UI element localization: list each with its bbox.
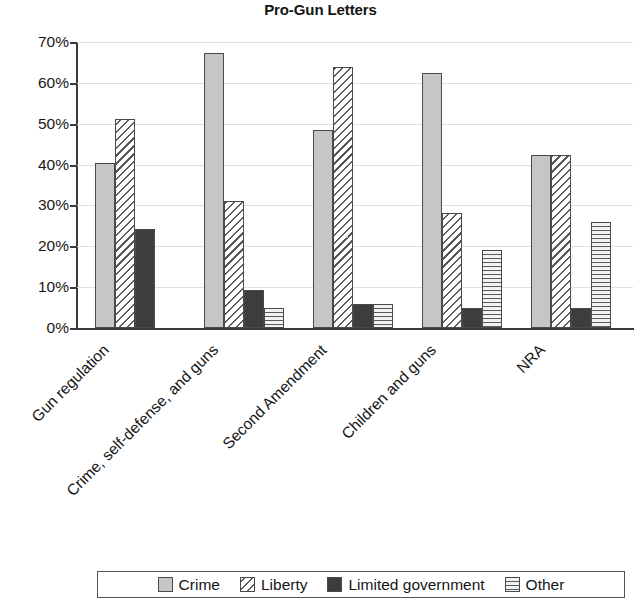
- bar-group: [204, 42, 284, 328]
- bar-chart: Pro-Gun Letters 0%10%20%30%40%50%60%70% …: [0, 0, 641, 604]
- x-axis-tick-label: Children and guns: [338, 341, 440, 443]
- y-axis-tick-mark: [70, 328, 77, 330]
- legend-swatch-icon: [327, 577, 342, 592]
- y-axis-tick-mark: [70, 205, 77, 207]
- y-axis-tick-mark: [70, 83, 77, 85]
- chart-title: Pro-Gun Letters: [0, 1, 641, 18]
- bar: [462, 308, 482, 328]
- bar: [591, 222, 611, 328]
- y-axis-tick-label: 20%: [17, 237, 69, 255]
- bar: [313, 130, 333, 328]
- y-axis-tick-mark: [70, 124, 77, 126]
- legend-swatch-icon: [505, 577, 520, 592]
- bar-group: [95, 42, 175, 328]
- bar: [482, 250, 502, 328]
- y-axis-tick-mark: [70, 165, 77, 167]
- bar: [135, 229, 155, 328]
- y-axis-tick-label: 70%: [17, 33, 69, 51]
- x-axis-tick-label: Second Amendment: [219, 341, 330, 452]
- plot-area: [77, 42, 633, 328]
- x-axis-tick-label: NRA: [513, 341, 549, 377]
- bar: [333, 67, 353, 328]
- bar: [442, 213, 462, 328]
- bar: [264, 308, 284, 328]
- bar: [531, 155, 551, 328]
- legend-label: Liberty: [261, 576, 308, 594]
- legend-label: Other: [526, 576, 565, 594]
- legend-label: Limited government: [348, 576, 484, 594]
- x-axis-tick-label: Gun regulation: [28, 341, 113, 426]
- y-axis-tick-label: 60%: [17, 74, 69, 92]
- bar: [353, 304, 373, 329]
- legend-item[interactable]: Crime: [158, 576, 220, 594]
- legend-item[interactable]: Limited government: [327, 576, 484, 594]
- y-axis-tick-label: 50%: [17, 115, 69, 133]
- y-axis-tick-label: 10%: [17, 278, 69, 296]
- legend: CrimeLibertyLimited governmentOther: [97, 571, 625, 598]
- legend-swatch-icon: [158, 577, 173, 592]
- bar: [95, 163, 115, 328]
- scan-speck: [346, 236, 348, 238]
- legend-swatch-icon: [240, 577, 255, 592]
- bar: [571, 308, 591, 328]
- y-axis-tick-mark: [70, 42, 77, 44]
- y-axis-tick-mark: [70, 246, 77, 248]
- legend-item[interactable]: Other: [505, 576, 565, 594]
- bar: [551, 155, 571, 328]
- bar: [244, 290, 264, 328]
- y-axis-tick-label: 0%: [17, 319, 69, 337]
- bar-group: [531, 42, 611, 328]
- bar-group: [422, 42, 502, 328]
- bar: [373, 304, 393, 329]
- y-axis-tick-label: 40%: [17, 156, 69, 174]
- legend-item[interactable]: Liberty: [240, 576, 308, 594]
- legend-label: Crime: [179, 576, 220, 594]
- bar: [204, 53, 224, 328]
- y-axis-line: [76, 42, 78, 329]
- bar: [115, 119, 135, 328]
- bar-group: [313, 42, 393, 328]
- y-axis-tick-mark: [70, 287, 77, 289]
- bar: [224, 201, 244, 328]
- bar: [422, 73, 442, 328]
- x-axis-line: [76, 328, 634, 330]
- y-axis-tick-label: 30%: [17, 196, 69, 214]
